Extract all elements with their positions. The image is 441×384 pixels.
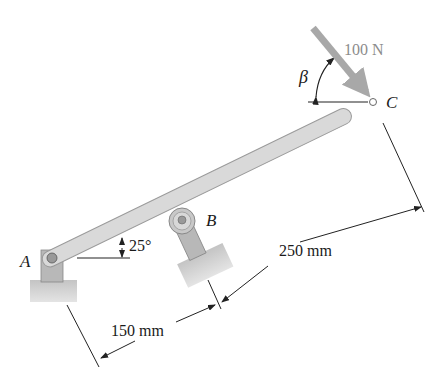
label-c: C xyxy=(386,93,398,112)
beta-arc xyxy=(316,58,334,97)
label-b: B xyxy=(206,211,217,230)
force-arrow xyxy=(313,28,366,92)
label-dim-250: 250 mm xyxy=(279,242,332,259)
mechanics-diagram: A B C 100 N β 25° 150 mm 250 mm xyxy=(0,0,441,384)
ground-support-a xyxy=(30,280,77,302)
diagram-svg: A B C 100 N β 25° 150 mm 250 mm xyxy=(0,0,441,384)
label-dim-150: 150 mm xyxy=(111,322,164,339)
label-a: A xyxy=(19,252,31,271)
label-force: 100 N xyxy=(344,41,384,58)
label-angle-25: 25° xyxy=(129,237,151,254)
pin-c xyxy=(370,99,377,106)
pin-a xyxy=(47,253,57,263)
label-beta: β xyxy=(298,67,308,87)
